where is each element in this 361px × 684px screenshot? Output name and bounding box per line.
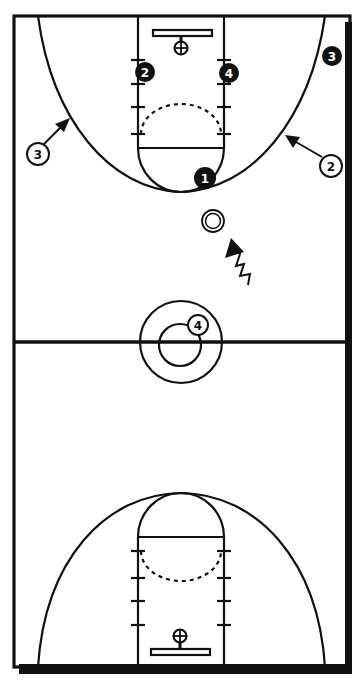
ball-icon [202, 210, 224, 232]
bottom-hoop-icon [174, 630, 187, 643]
svg-text:3: 3 [328, 50, 336, 64]
offense-player-2: 2 [135, 62, 155, 82]
offense-player-3: 3 [322, 46, 342, 66]
bottom-free-throw-circle-dashed [141, 551, 221, 581]
bottom-half-court [38, 493, 325, 667]
defense-player-2: 2 [320, 155, 342, 177]
dribble-arrow-icon [225, 238, 250, 285]
svg-text:4: 4 [225, 67, 233, 81]
offense-player-1: 1 [194, 167, 216, 189]
defense-player-4: 4 [188, 315, 208, 335]
top-half-court [38, 16, 325, 192]
svg-text:2: 2 [327, 160, 335, 174]
svg-text:4: 4 [194, 319, 202, 333]
bottom-free-throw-circle-solid [138, 493, 224, 537]
top-free-throw-circle-dashed [141, 104, 221, 134]
top-backboard [153, 30, 212, 36]
bottom-lane-hash-marks [131, 551, 231, 625]
cut-arrow-defense-2 [285, 135, 322, 157]
defense-player-3: 3 [27, 143, 49, 165]
basketball-court-diagram: 1 2 3 4 2 3 4 [0, 0, 361, 684]
svg-text:1: 1 [201, 172, 209, 186]
top-hoop-icon [175, 42, 188, 55]
cut-arrow-defense-3 [43, 118, 70, 145]
svg-text:2: 2 [141, 66, 149, 80]
offense-player-4: 4 [219, 63, 239, 83]
bottom-three-point-arc [38, 493, 325, 667]
bottom-backboard [151, 649, 210, 655]
svg-text:3: 3 [34, 148, 42, 162]
